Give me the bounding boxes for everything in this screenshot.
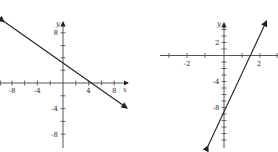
x-tick-label: -8 <box>9 87 16 95</box>
y-axis-label: y <box>216 20 222 28</box>
y-tick-label: 2 <box>215 39 219 47</box>
y-tick-label: -8 <box>51 131 58 139</box>
x-axis-label: x <box>123 86 127 94</box>
left-graph: -8 -4 4 8 x 8 -4 -8 y <box>0 0 140 152</box>
x-tick-label: -2 <box>184 60 191 68</box>
x-tick-label: 2 <box>257 60 261 68</box>
x-tick-label: -4 <box>34 87 41 95</box>
y-axis-label: y <box>55 20 61 28</box>
right-graph: -2 2 2 -4 -8 y <box>140 0 278 152</box>
y-tick-label: -8 <box>213 104 220 112</box>
y-tick-label: -4 <box>51 105 58 113</box>
x-tick-label: 8 <box>112 87 116 95</box>
plotted-line <box>4 22 127 109</box>
left-graph-svg: -8 -4 4 8 x 8 -4 -8 y <box>0 0 140 152</box>
right-graph-svg: -2 2 2 -4 -8 y <box>140 0 278 152</box>
y-tick-label: 8 <box>54 29 58 37</box>
y-tick-label: -4 <box>213 78 220 86</box>
x-tick-label: 4 <box>86 87 91 95</box>
